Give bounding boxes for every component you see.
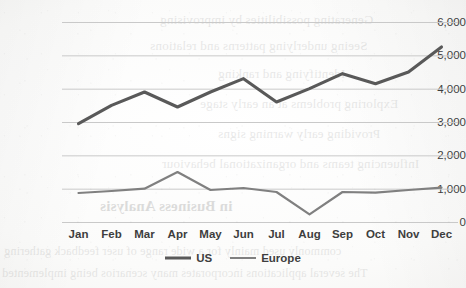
x-axis-tick-label: Feb xyxy=(101,228,121,240)
x-axis-tick-label: Jun xyxy=(233,228,253,240)
x-axis-tick-label: Jan xyxy=(69,228,89,240)
y-gridlines xyxy=(62,23,458,223)
x-axis-tick-label: Dec xyxy=(431,228,452,240)
legend-entry-us[interactable]: US xyxy=(165,252,212,264)
chart-legend: USEurope xyxy=(0,252,466,264)
x-axis-tick-label: Aug xyxy=(298,228,320,240)
legend-line-swatch xyxy=(165,253,191,263)
x-axis-tick-label: Oct xyxy=(366,228,385,240)
legend-label: Europe xyxy=(261,252,301,264)
x-axis-tick-label: Sep xyxy=(332,228,353,240)
series-line-us xyxy=(79,47,442,124)
legend-label: US xyxy=(196,252,212,264)
x-axis-tick-label: Apr xyxy=(168,228,188,240)
series-line-europe xyxy=(79,172,442,214)
legend-entry-europe[interactable]: Europe xyxy=(230,252,301,264)
x-axis-tick-label: May xyxy=(199,228,221,240)
x-axis-tick-label: Nov xyxy=(398,228,420,240)
line-chart: 01,0002,0003,0004,0005,0006,000 JanFebMa… xyxy=(0,0,466,288)
legend-line-swatch xyxy=(230,253,256,263)
plot-canvas xyxy=(0,0,466,288)
x-axis-tick-label: Mar xyxy=(134,228,154,240)
x-axis-tick-label: Jul xyxy=(268,228,285,240)
